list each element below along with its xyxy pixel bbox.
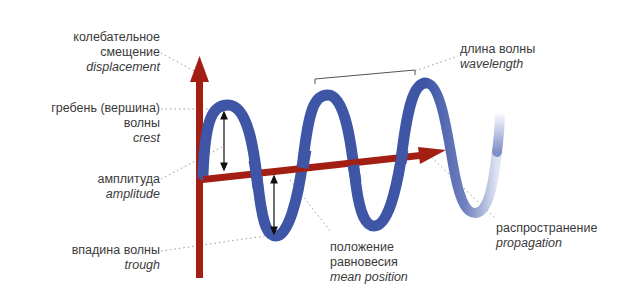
label-crest-ru2: волны [20,116,160,131]
label-trough-ru: впадина волны [30,243,160,258]
label-amplitude: амплитуда amplitude [30,172,160,202]
label-displacement-ru2: смещение [30,45,160,60]
label-mean-position-ru1: положение [330,240,408,255]
leader-displacement [161,53,196,72]
label-crest: гребень (вершина) волны crest [20,101,160,146]
label-propagation-en: propagation [496,236,597,251]
label-displacement-ru1: колебательное [30,30,160,45]
leader-lines [161,53,495,251]
wave-ribbon [203,83,500,236]
label-displacement: колебательное смещение displacement [30,30,160,75]
label-propagation: распространение propagation [496,221,597,251]
label-wavelength-en: wavelength [460,57,535,72]
label-mean-position-en: mean position [330,270,408,285]
wave-band-fading [426,83,497,213]
label-crest-en: crest [20,131,160,146]
wavelength-bracket [315,70,415,84]
label-wavelength-ru: длина волны [460,42,535,57]
leader-wavelength [415,56,458,71]
leader-trough [161,235,272,251]
label-trough: впадина волны trough [30,243,160,273]
propagation-axis [203,147,446,183]
label-propagation-ru: распространение [496,221,597,236]
label-mean-position-ru2: равновесия [330,255,408,270]
label-displacement-en: displacement [30,60,160,75]
leader-amplitude [161,147,222,179]
label-amplitude-ru: амплитуда [30,172,160,187]
wave-band-tail [497,112,500,152]
label-wavelength: длина волны wavelength [460,42,535,72]
label-trough-en: trough [30,258,160,273]
label-mean-position: положение равновесия mean position [330,240,408,285]
label-crest-ru1: гребень (вершина) [20,101,160,116]
label-amplitude-en: amplitude [30,187,160,202]
